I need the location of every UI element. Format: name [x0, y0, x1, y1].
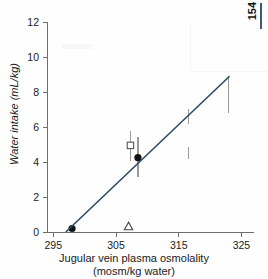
y-axis-ticks: [43, 22, 47, 232]
x-tick-label: 295: [33, 240, 73, 251]
x-axis-label: Jugular vein plasma osmolality (mosm/kg …: [0, 252, 268, 278]
axes: [43, 22, 254, 237]
x-axis-ticks: [53, 232, 241, 237]
y-tick-label: 12: [7, 17, 39, 28]
x-axis-label-line1: Jugular vein plasma osmolality: [59, 252, 209, 264]
x-tick-label: 315: [159, 240, 199, 251]
figure-panel: 154 024681012295305315325 Water intake (…: [0, 0, 268, 279]
regression-line: [66, 76, 230, 232]
plot-canvas: [0, 0, 268, 279]
y-tick-label: 2: [7, 192, 39, 203]
y-tick-label: 0: [7, 227, 39, 238]
data-point-open-square: [127, 142, 133, 148]
regression-line-path: [66, 76, 230, 232]
x-tick-label: 325: [221, 240, 261, 251]
data-point-open-triangle: [124, 222, 132, 230]
x-tick-label: 305: [96, 240, 136, 251]
y-axis-label: Water intake (mL/kg): [8, 54, 20, 174]
x-axis-label-line2: (mosm/kg water): [0, 265, 268, 278]
